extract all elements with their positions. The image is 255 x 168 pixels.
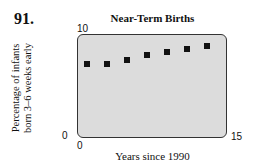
x-axis-label: Years since 1990 — [77, 150, 228, 162]
y-tick-min: 0 — [62, 130, 68, 141]
y-axis-label-line1: Percentage of infants — [10, 33, 22, 143]
data-point — [164, 49, 170, 55]
plot-area — [77, 34, 227, 138]
y-axis-label-line2: born 3–6 weeks early — [22, 33, 34, 143]
data-point — [204, 43, 210, 49]
data-point — [84, 61, 90, 67]
data-point — [144, 52, 150, 58]
y-axis-label: Percentage of infants born 3–6 weeks ear… — [10, 33, 34, 143]
chart-title: Near-Term Births — [77, 12, 228, 24]
y-tick-max: 10 — [77, 23, 88, 34]
data-point — [184, 46, 190, 52]
data-point — [104, 61, 110, 67]
data-point — [124, 57, 130, 63]
x-tick-max: 15 — [231, 131, 242, 142]
problem-number: 91. — [14, 10, 34, 28]
